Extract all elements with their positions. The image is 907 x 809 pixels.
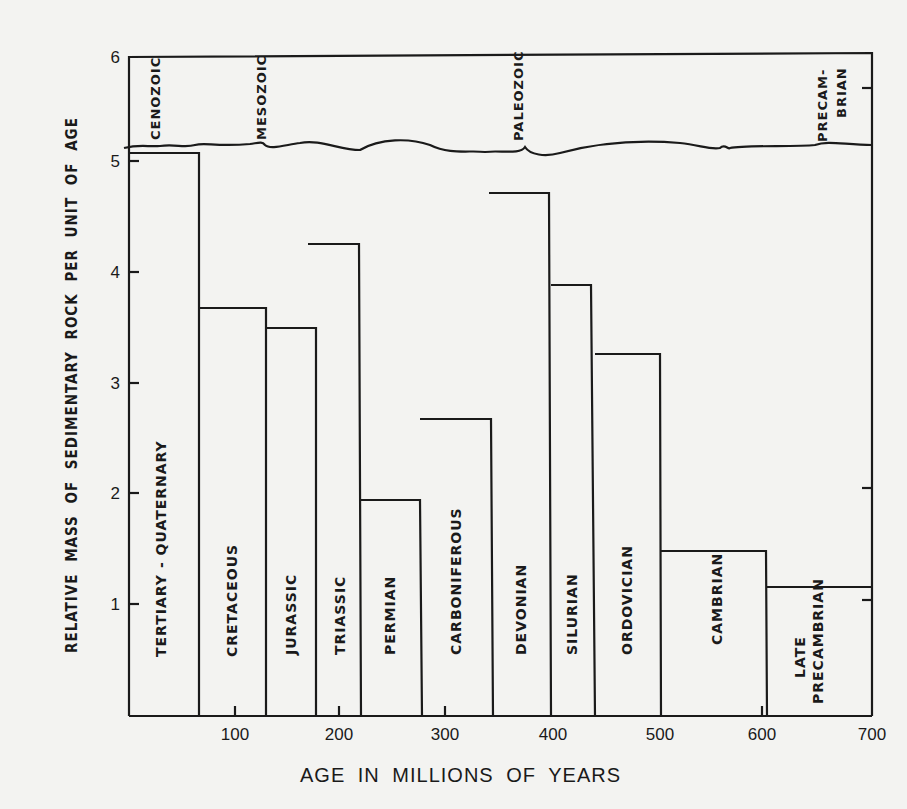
x-tick-label-400: 400 <box>539 725 567 744</box>
x-tick-label-700: 700 <box>858 725 886 744</box>
y-tick-label-2: 2 <box>111 484 120 503</box>
period-label-late-precambrian-line2: PRECAMBRIAN <box>810 578 826 704</box>
bar-ordovician <box>595 354 661 716</box>
era-label-mesozoic: MESOZOIC <box>254 55 269 140</box>
era-label-paleozoic: PALEOZOIC <box>511 51 526 141</box>
y-tick-label-4: 4 <box>111 263 120 282</box>
y-axis-label: RELATIVE MASS OF SEDIMENTARY ROCK PER UN… <box>63 117 81 653</box>
x-tick-label-200: 200 <box>325 725 353 744</box>
bar-chart: 6 5 4 3 2 1 100 200 300 400 500 600 700 … <box>0 0 907 809</box>
x-tick-label-300: 300 <box>431 725 459 744</box>
y-tick-label-3: 3 <box>111 374 120 393</box>
bar-jurassic <box>266 328 316 716</box>
period-label-silurian: SILURIAN <box>564 573 580 655</box>
era-label-precambrian-line2: BRIAN <box>834 67 849 118</box>
era-boundary-wave <box>124 140 872 155</box>
era-label-cenozoic: CENOZOIC <box>148 57 163 140</box>
period-label-devonian: DEVONIAN <box>513 564 529 655</box>
bars <box>129 153 872 716</box>
period-label-late-precambrian-line1: LATE <box>792 636 808 678</box>
y-tick-label-6: 6 <box>111 48 120 67</box>
y-tick-label-5: 5 <box>111 152 120 171</box>
period-label-cretaceous: CRETACEOUS <box>224 544 240 657</box>
period-label-tertiary-quaternary: TERTIARY - QUATERNARY <box>153 440 169 657</box>
x-tick-label-600: 600 <box>748 725 776 744</box>
period-label-jurassic: JURASSIC <box>283 574 299 656</box>
period-label-carboniferous: CARBONIFEROUS <box>448 507 464 655</box>
era-label-precambrian-line1: PRECAM- <box>815 69 830 142</box>
period-label-cambrian: CAMBRIAN <box>709 553 725 645</box>
x-tick-label-100: 100 <box>221 725 249 744</box>
period-label-ordovician: ORDOVICIAN <box>619 545 635 655</box>
y-tick-label-1: 1 <box>111 595 120 614</box>
period-label-triassic: TRIASSIC <box>332 576 348 655</box>
x-tick-label-500: 500 <box>646 725 674 744</box>
x-axis-label: AGE IN MILLIONS OF YEARS <box>300 764 621 787</box>
period-label-permian: PERMIAN <box>382 576 398 655</box>
